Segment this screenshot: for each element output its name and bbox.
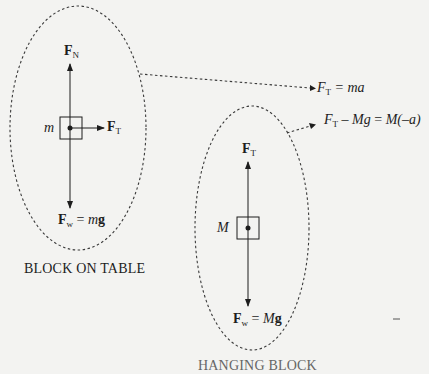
gravity-symbol: g <box>275 311 282 326</box>
force-symbol: F <box>58 212 67 227</box>
force-subscript: T <box>251 148 257 158</box>
leader-line-eq1 <box>140 74 310 88</box>
force-symbol: F <box>233 311 242 326</box>
force-symbol: F <box>107 119 116 134</box>
eq-rhs: M(–a) <box>386 112 421 127</box>
caption-block-on-table: BLOCK ON TABLE <box>24 261 145 277</box>
eq-minus: – <box>338 112 352 127</box>
equation-1: FT = ma <box>317 81 365 97</box>
equals-sign: = <box>248 311 263 326</box>
eq-symbol: F <box>317 80 326 95</box>
weight-force-label-right: Fw = Mg <box>233 312 282 328</box>
force-subscript: T <box>116 126 122 136</box>
eq-symbol: F <box>324 112 333 127</box>
force-symbol: F <box>64 43 73 58</box>
mass-symbol: M <box>263 311 275 326</box>
mass-label-m: m <box>44 121 54 135</box>
equals-sign: = <box>73 212 88 227</box>
gravity-symbol: g <box>98 212 105 227</box>
force-subscript: N <box>73 50 80 60</box>
tension-force-label-right: FT <box>242 142 256 158</box>
mass-symbol: m <box>88 212 98 227</box>
tension-force-label-left: FT <box>107 120 121 136</box>
weight-force-label-left: Fw = mg <box>58 213 105 229</box>
eq-Mg: Mg <box>352 112 371 127</box>
leader-arrowhead-eq1 <box>310 85 316 91</box>
eq-equals: = <box>371 112 386 127</box>
force-symbol: F <box>242 141 251 156</box>
equation-2: FT – Mg = M(–a) <box>324 113 421 129</box>
eq-rhs: = ma <box>331 80 365 95</box>
mass-label-M: M <box>217 221 229 235</box>
leader-line-eq2 <box>287 126 310 133</box>
caption-hanging-block: HANGING BLOCK <box>198 358 317 374</box>
leader-arrowhead-eq2 <box>309 123 316 129</box>
normal-force-label: FN <box>64 44 79 60</box>
